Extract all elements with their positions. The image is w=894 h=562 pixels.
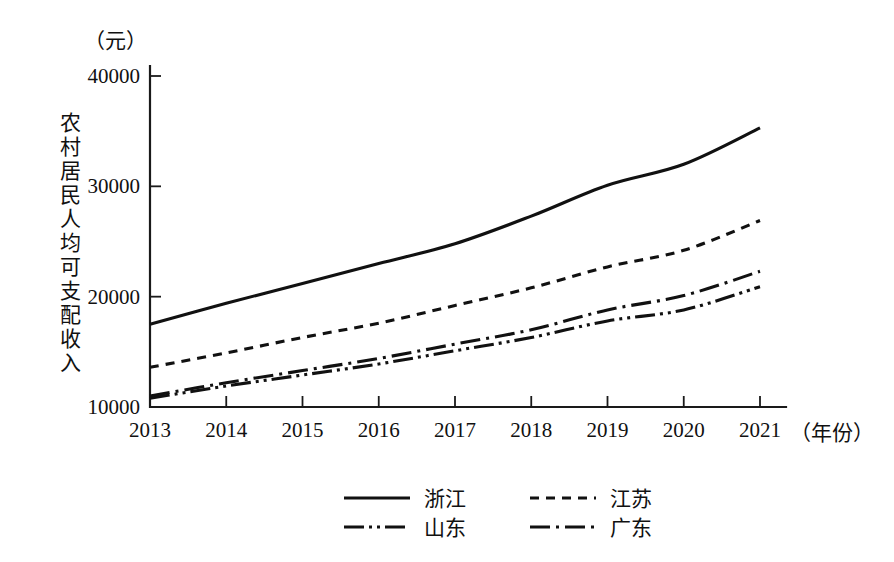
- chart-figure: 10000200003000040000 2013201420152016201…: [0, 0, 894, 562]
- x-tick-label: 2018: [510, 418, 552, 442]
- y-axis-title-char: 配: [60, 303, 81, 327]
- x-axis-label: （年份）: [790, 421, 874, 445]
- x-tick-label: 2016: [358, 418, 400, 442]
- legend-label-2: 山东: [424, 516, 466, 540]
- x-axis-ticks: 201320142015201620172018201920202021: [129, 396, 781, 442]
- x-tick-label: 2015: [282, 418, 324, 442]
- x-tick-label: 2020: [663, 418, 705, 442]
- x-tick-label: 2014: [205, 418, 248, 442]
- legend-label-0: 浙江: [424, 487, 466, 511]
- y-axis-unit-label: （元）: [84, 29, 147, 53]
- y-axis-title-char: 居: [60, 159, 81, 183]
- y-axis-title-char: 民: [60, 183, 81, 207]
- y-axis-title-char: 入: [60, 351, 81, 375]
- y-tick-label: 10000: [88, 395, 141, 419]
- y-axis-title: 农村居民人均可支配收入: [60, 111, 81, 375]
- y-axis-title-char: 村: [60, 135, 81, 159]
- x-tick-label: 2021: [739, 418, 781, 442]
- x-tick-label: 2019: [587, 418, 629, 442]
- x-tick-label: 2013: [129, 418, 171, 442]
- y-tick-label: 30000: [88, 174, 141, 198]
- y-axis-title-char: 均: [60, 231, 81, 255]
- y-axis-title-char: 农: [60, 111, 81, 135]
- line-chart-canvas: 10000200003000040000 2013201420152016201…: [0, 0, 894, 562]
- y-tick-label: 40000: [88, 64, 141, 88]
- y-axis-title-char: 收: [60, 327, 81, 351]
- y-axis-title-char: 可: [60, 255, 81, 279]
- x-tick-label: 2017: [434, 418, 476, 442]
- y-tick-label: 20000: [88, 285, 141, 309]
- y-axis-title-char: 人: [60, 207, 81, 231]
- y-axis-title-char: 支: [60, 279, 81, 303]
- legend-label-3: 广东: [610, 516, 652, 540]
- legend-label-1: 江苏: [610, 487, 652, 511]
